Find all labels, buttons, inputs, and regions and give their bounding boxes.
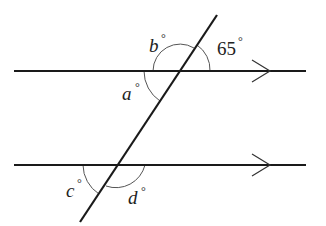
label-a: a [122, 83, 132, 104]
degree-b: ° [161, 31, 166, 45]
diagram-canvas: b ° 65 ° a ° c ° d ° [0, 0, 326, 226]
angle-arcs [83, 44, 210, 194]
label-c: c [66, 180, 75, 201]
degree-65: ° [238, 34, 243, 48]
arc-d [106, 165, 145, 188]
degree-c: ° [77, 176, 82, 190]
arc-c [83, 165, 99, 194]
degree-d: ° [141, 184, 146, 198]
label-d: d [128, 187, 138, 208]
arc-a [144, 71, 160, 101]
arc-65 [197, 45, 210, 71]
label-65: 65 [217, 38, 236, 59]
degree-a: ° [135, 80, 140, 94]
label-b: b [149, 35, 159, 56]
